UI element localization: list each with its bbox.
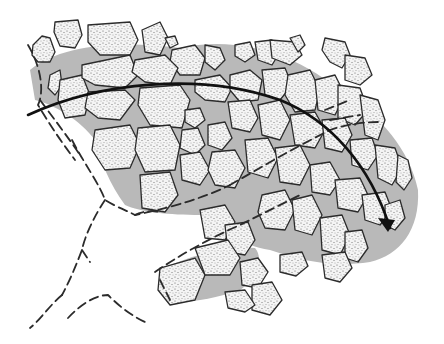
dashed-boundary <box>30 250 90 328</box>
stippled-block <box>54 20 82 48</box>
stippled-block <box>225 290 255 312</box>
stippled-block <box>88 22 138 55</box>
stippled-block <box>252 282 282 315</box>
dashed-boundary <box>68 295 145 322</box>
stippled-block <box>135 125 180 172</box>
stippled-block <box>165 36 178 48</box>
stippled-block <box>58 75 90 118</box>
stippled-block <box>345 55 372 85</box>
stippled-block <box>322 252 352 282</box>
stippled-block <box>280 252 308 276</box>
diagram-canvas <box>0 0 444 344</box>
dashed-boundary <box>62 200 105 295</box>
